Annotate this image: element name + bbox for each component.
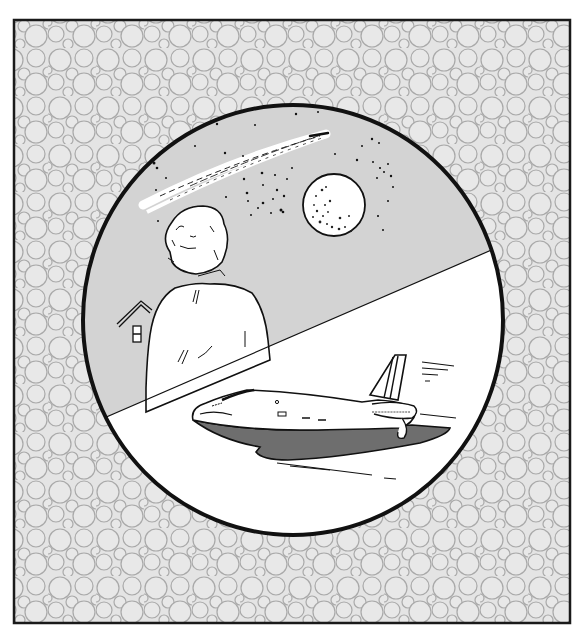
caption [30,630,550,640]
illustration [0,0,587,640]
moon-icon [303,174,365,236]
